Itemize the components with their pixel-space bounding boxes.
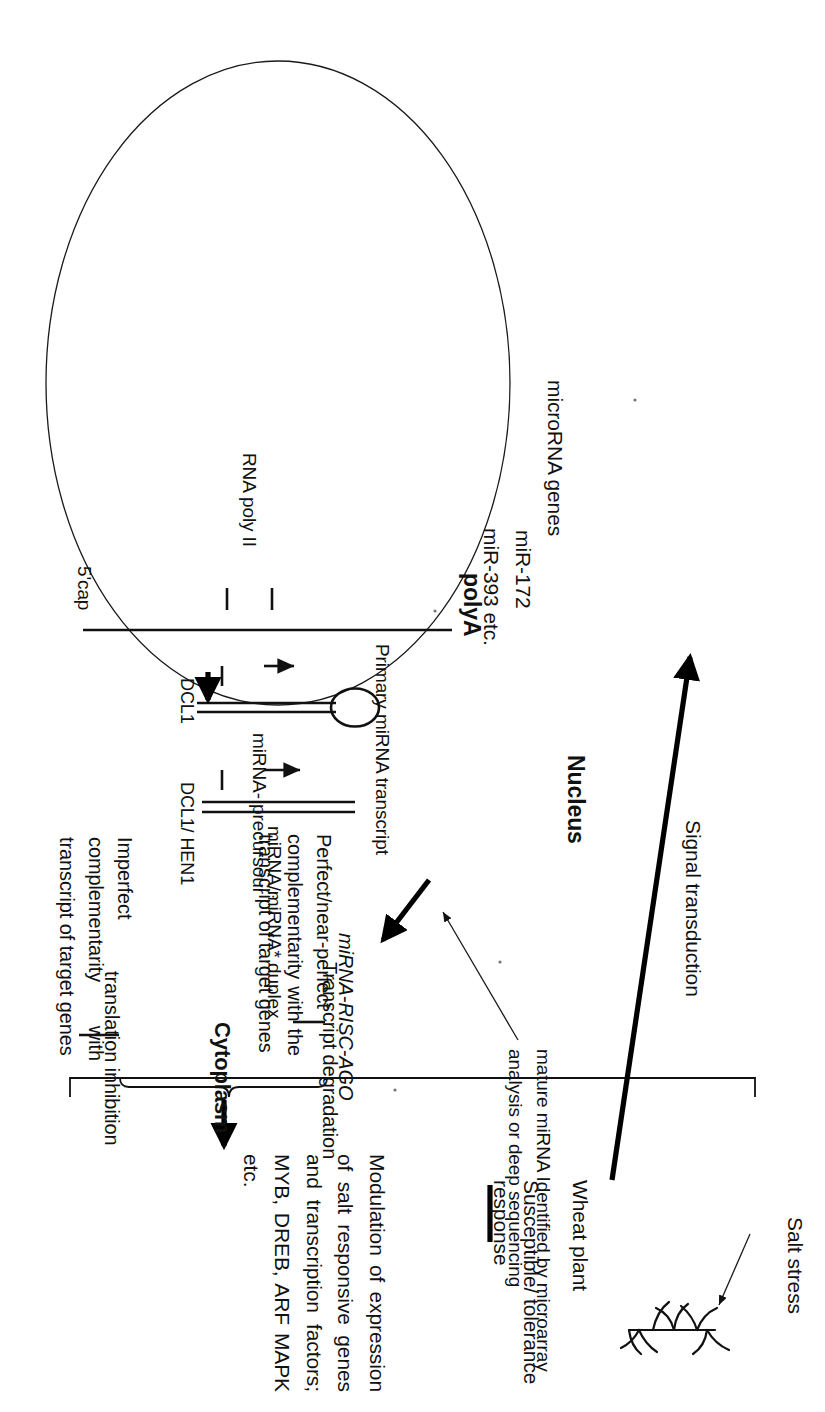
imperfect-complementarity-label: Imperfect complementarity with transcrip… xyxy=(52,837,139,1061)
modulation-label: Modulation of expression of salt respons… xyxy=(236,1154,394,1392)
dcl1-step-label: DCL1 xyxy=(176,678,197,724)
wheat-plant-label: Wheat plant xyxy=(567,1180,592,1291)
figure-canvas: microRNA genes miR-172 miR-393 etc. RNA … xyxy=(0,0,825,1412)
microrna-genes-label: microRNA genes xyxy=(542,380,567,536)
wheat-plant-sketch-icon xyxy=(621,1302,729,1354)
mirna-example-1-label: miR-172 xyxy=(510,530,535,609)
polya-label: polyA xyxy=(458,573,485,636)
five-prime-cap-label: 5'cap xyxy=(73,566,95,610)
translation-inhibition-label: translation inhibition xyxy=(97,971,125,1171)
scan-speck xyxy=(393,1088,396,1091)
primary-transcript-label: Primary miRNA transcript xyxy=(371,644,393,855)
scan-speck xyxy=(498,960,501,963)
response-label: Susceptible/ tolerance response xyxy=(485,1180,546,1410)
salt-stress-arrow-icon xyxy=(719,1234,750,1305)
nucleus-label: Nucleus xyxy=(562,755,589,844)
signal-transduction-label: Signal transduction xyxy=(680,820,705,997)
detection-annotation-pointer xyxy=(443,912,518,1040)
scan-speck xyxy=(433,609,436,612)
cytoplasm-bracket-icon xyxy=(70,1078,755,1097)
diagram-vector-layer xyxy=(0,0,825,1412)
signal-transduction-arrow-icon xyxy=(612,657,690,1180)
rna-poly-ii-label: RNA poly II xyxy=(238,453,260,547)
salt-stress-label: Salt stress xyxy=(782,1217,807,1314)
risc-export-arrow-icon xyxy=(383,880,429,940)
cytoplasm-label: Cytoplasm xyxy=(209,1022,235,1134)
nucleus-membrane-icon xyxy=(46,61,510,705)
scan-speck xyxy=(633,398,636,401)
transcript-degradation-label: Transcript degradation xyxy=(315,962,343,1162)
dcl1-hen1-step-label: DCL1/ HEN1 xyxy=(176,782,197,885)
